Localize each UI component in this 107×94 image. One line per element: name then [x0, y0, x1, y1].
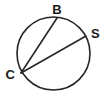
point-label-b: B	[52, 2, 61, 17]
point-label-c: C	[6, 67, 16, 82]
point-label-s: S	[91, 26, 100, 41]
chord-c-b	[21, 18, 57, 73]
circle-geometry-diagram: B S C	[0, 0, 107, 94]
geometry-canvas: B S C	[0, 0, 107, 94]
chord-c-s	[21, 36, 86, 73]
main-circle	[17, 17, 90, 90]
